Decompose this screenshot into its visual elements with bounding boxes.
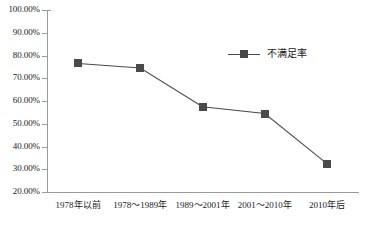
x-axis-label-2: 1989～2001年 [176, 200, 230, 211]
y-axis-tick [42, 10, 47, 11]
legend-label-0: 不满足率 [267, 49, 307, 59]
y-axis-tick [42, 169, 47, 170]
y-axis-tick-label: 90.00% [0, 28, 40, 37]
y-axis-line [47, 10, 48, 193]
square-marker-icon [240, 50, 248, 58]
legend-line-left [228, 54, 240, 55]
y-axis-tick [42, 78, 47, 79]
y-axis-tick [42, 33, 47, 34]
chart-container: 100.00%90.00%80.00%70.00%60.00%50.00%40.… [0, 0, 365, 239]
y-axis-tick [42, 192, 47, 193]
y-axis-tick [42, 101, 47, 102]
y-axis-tick-label: 80.00% [0, 51, 40, 60]
y-axis-tick-label: 20.00% [0, 187, 40, 196]
y-axis-tick-label: 100.00% [0, 5, 40, 14]
data-point-marker-1 [136, 64, 144, 72]
x-axis-label-0: 1978年以前 [56, 200, 101, 211]
x-axis-label-3: 2001～2010年 [238, 200, 292, 211]
y-axis-tick [42, 56, 47, 57]
data-point-marker-2 [199, 103, 207, 111]
legend-line-right [248, 54, 260, 55]
x-axis-label-4: 2010年后 [309, 200, 345, 211]
y-axis-tick [42, 124, 47, 125]
y-axis-tick-label: 40.00% [0, 142, 40, 151]
chart-legend: 不满足率 [228, 49, 307, 59]
y-axis-tick-label: 30.00% [0, 164, 40, 173]
y-axis-tick-label: 60.00% [0, 96, 40, 105]
x-axis-line [47, 192, 359, 193]
y-axis-top-cap [47, 10, 51, 11]
y-axis-tick-label: 70.00% [0, 73, 40, 82]
y-axis-tick [42, 147, 47, 148]
data-point-marker-3 [261, 110, 269, 118]
y-axis-tick-label: 50.00% [0, 119, 40, 128]
data-point-marker-0 [74, 59, 82, 67]
data-point-marker-4 [323, 160, 331, 168]
x-axis-label-1: 1978～1989年 [113, 200, 167, 211]
